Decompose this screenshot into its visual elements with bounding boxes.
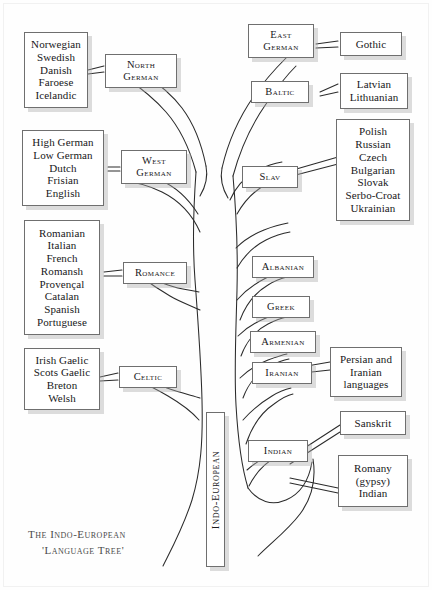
- connector-baltic: [320, 84, 338, 96]
- node-box-east-german: East German: [248, 24, 314, 58]
- diagram-page: Norwegian Swedish Danish Faroese Iceland…: [0, 0, 432, 590]
- node-box-celtic: Celtic: [119, 366, 177, 388]
- limb-right-upper-fork: [221, 168, 228, 198]
- language-item: Czech: [346, 151, 401, 164]
- language-item: Portuguese: [37, 316, 87, 329]
- language-item: Provençal: [37, 278, 87, 291]
- connector-romance: [104, 270, 122, 276]
- limb-right-upper-b: [222, 58, 286, 168]
- trunk-label-indo-european: Indo-European: [206, 412, 225, 567]
- language-item: Icelandic: [31, 89, 81, 102]
- node-label-line: German: [263, 41, 298, 53]
- language-item: Polish: [346, 125, 401, 138]
- node-label-line: Slav: [260, 171, 281, 183]
- caption-line-1: The Indo-European: [28, 527, 198, 543]
- node-box-greek: Greek: [252, 296, 310, 318]
- connector-north-german: [88, 66, 104, 74]
- language-item: Romany: [354, 462, 392, 475]
- limb-west-german-b: [124, 181, 200, 232]
- node-label-line: Baltic: [265, 86, 294, 98]
- language-item: Frisian: [32, 174, 93, 187]
- language-item: (gypsy): [354, 475, 392, 488]
- leaf-box-indian-sanskrit: Sanskrit: [340, 411, 406, 435]
- node-box-albanian: Albanian: [252, 256, 314, 278]
- diagram-caption: The Indo-European 'Language Tree': [28, 527, 198, 559]
- leaf-box-east-german-languages: Gothic: [340, 32, 402, 56]
- limb-iranian-b: [246, 394, 293, 444]
- trunk-right-contour: [233, 176, 248, 488]
- node-box-iranian: Iranian: [252, 362, 312, 384]
- language-item: Norwegian: [31, 38, 81, 51]
- language-item: Serbo-Croat: [346, 189, 401, 202]
- node-label-line: Indian: [264, 445, 292, 457]
- node-box-slav: Slav: [242, 166, 298, 188]
- trunk-root-right: [248, 462, 312, 503]
- language-item: Persian and: [340, 353, 392, 366]
- language-item: Irish Gaelic: [34, 354, 91, 367]
- caption-line-2: 'Language Tree': [28, 543, 198, 559]
- limb-iranian-a: [243, 388, 291, 420]
- trunk-label-text: Indo-European: [210, 450, 222, 528]
- node-label-line: Celtic: [134, 371, 163, 383]
- node-label-line: Albanian: [262, 261, 304, 273]
- node-label-line: Armenian: [261, 336, 304, 348]
- connector-west-german: [108, 167, 120, 171]
- language-item: Bulgarian: [346, 164, 401, 177]
- limb-slav-a: [236, 223, 288, 248]
- leaf-box-celtic-languages: Irish Gaelic Scots Gaelic Breton Welsh: [24, 348, 100, 410]
- language-item: Indian: [354, 487, 392, 500]
- leaf-box-baltic-languages: Latvian Lithuanian: [340, 73, 408, 109]
- node-box-west-german: West German: [121, 150, 187, 184]
- language-item: Russian: [346, 138, 401, 151]
- connector-east-german: [316, 41, 338, 48]
- language-item: Catalan: [37, 290, 87, 303]
- language-item: Romanian: [37, 227, 87, 240]
- language-item: languages: [340, 378, 392, 391]
- language-item: Romansh: [37, 265, 87, 278]
- language-item: Low German: [32, 149, 93, 162]
- language-item: Dutch: [32, 162, 93, 175]
- language-item: Gothic: [356, 38, 387, 51]
- node-label-line: North: [123, 59, 158, 71]
- node-box-north-german: North German: [105, 54, 177, 88]
- language-item: Spanish: [37, 303, 87, 316]
- language-item: Scots Gaelic: [34, 366, 91, 379]
- node-label-line: Romance: [135, 267, 175, 279]
- leaf-box-indian-romany: Romany (gypsy) Indian: [338, 455, 408, 507]
- node-label-line: West: [136, 155, 171, 167]
- trunk-root-right-outer: [258, 459, 314, 556]
- language-item: Latvian: [350, 78, 399, 91]
- language-item: French: [37, 252, 87, 265]
- language-item: Breton: [34, 379, 91, 392]
- leaf-box-iranian-languages: Persian and Iranian languages: [330, 347, 402, 397]
- language-item: Faroese: [31, 76, 81, 89]
- connector-celtic: [100, 373, 118, 381]
- node-label-line: German: [123, 71, 158, 83]
- language-item: Welsh: [34, 392, 91, 405]
- leaf-box-romance-languages: Romanian Italian French Romansh Provença…: [24, 220, 100, 335]
- node-label-line: East: [263, 29, 298, 41]
- leaf-box-slav-languages: Polish Russian Czech Bulgarian Slovak Se…: [336, 119, 410, 221]
- language-item: Italian: [37, 239, 87, 252]
- language-item: Iranian: [340, 366, 392, 379]
- leaf-box-west-german-languages: High German Low German Dutch Frisian Eng…: [22, 130, 104, 206]
- node-label-line: German: [136, 167, 171, 179]
- language-item: English: [32, 187, 93, 200]
- node-box-indian: Indian: [248, 440, 308, 462]
- limb-left-upper-fork: [200, 166, 207, 196]
- node-label-line: Iranian: [265, 367, 299, 379]
- language-item: High German: [32, 136, 93, 149]
- language-item: Sanskrit: [355, 417, 392, 430]
- node-label-line: Greek: [267, 301, 295, 313]
- language-item: Slovak: [346, 176, 401, 189]
- node-box-baltic: Baltic: [251, 81, 309, 103]
- node-box-armenian: Armenian: [250, 331, 316, 353]
- language-item: Swedish: [31, 51, 81, 64]
- language-item: Lithuanian: [350, 91, 399, 104]
- language-item: Danish: [31, 64, 81, 77]
- node-box-romance: Romance: [123, 262, 187, 284]
- language-item: Ukrainian: [346, 202, 401, 215]
- leaf-box-north-german-languages: Norwegian Swedish Danish Faroese Iceland…: [24, 32, 88, 108]
